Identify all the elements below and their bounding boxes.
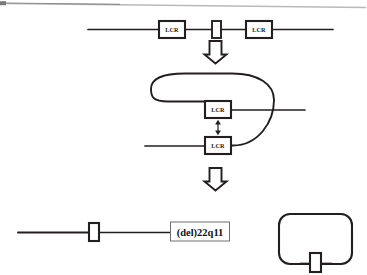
panel-bottom-left-deleted-chromosome: (del)22q11	[18, 222, 230, 241]
lcr-box-upper-middle: LCR	[205, 101, 231, 118]
panel-bottom-right-ring-product	[279, 214, 352, 272]
gene-box-top	[212, 21, 221, 38]
diagram-canvas: LCR LCR	[0, 0, 367, 275]
lcr-box-lower-middle: LCR	[205, 137, 231, 154]
deletion-callout: (del)22q11	[171, 222, 230, 241]
scan-artifact-line	[0, 1, 366, 7]
lcr-box-label: LCR	[165, 26, 179, 33]
block-arrow-down-1	[205, 41, 227, 64]
lcr-box-label: LCR	[211, 142, 225, 149]
lcr-box-label: LCR	[211, 106, 225, 113]
gene-box-ring-chromosome	[310, 253, 321, 272]
lcr-box-label: LCR	[252, 26, 266, 33]
gene-box-deleted-chromosome	[89, 223, 99, 241]
block-arrow-down-2	[205, 168, 227, 191]
double-headed-pairing-arrow	[215, 120, 221, 135]
panel-middle-looped-misalignment: LCR LCR	[145, 74, 305, 155]
deletion-callout-label: (del)22q11	[177, 227, 224, 239]
panel-top-normal-chromosome: LCR LCR	[88, 21, 333, 38]
recombination-diagram: LCR LCR	[0, 0, 367, 275]
lcr-box-distal-top: LCR	[246, 21, 272, 38]
lcr-box-proximal-top: LCR	[159, 21, 185, 38]
